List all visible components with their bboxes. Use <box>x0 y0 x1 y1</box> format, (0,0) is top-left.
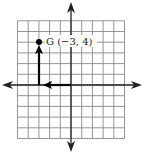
translation-path <box>35 45 71 89</box>
point-g-dot <box>36 39 42 45</box>
axes <box>2 2 142 152</box>
point-g-label: G (−3, 4) <box>46 36 93 47</box>
coordinate-plane: G (−3, 4) <box>0 0 145 154</box>
